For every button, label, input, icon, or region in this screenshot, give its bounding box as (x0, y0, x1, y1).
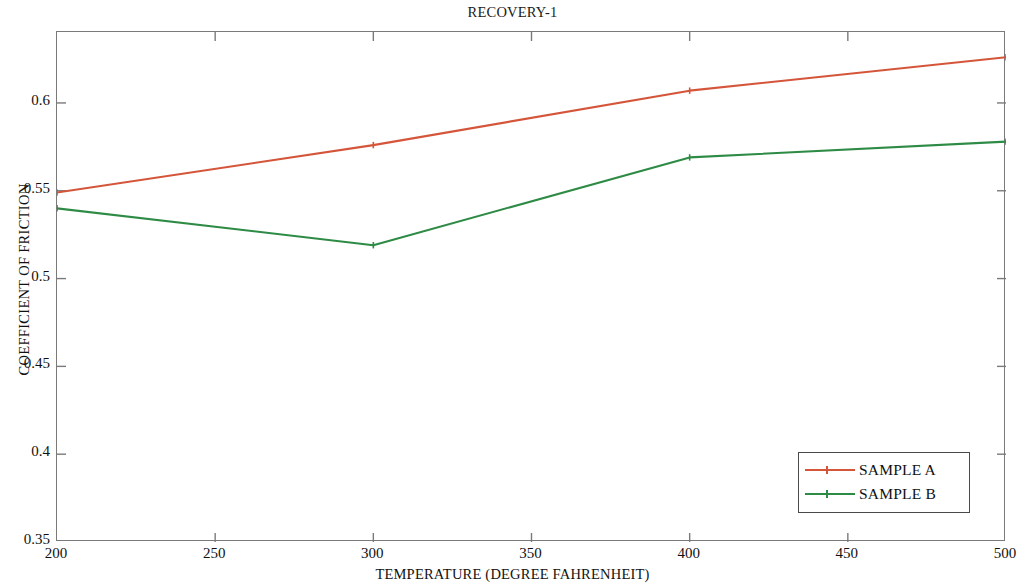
y-axis-title: COEFFICIENT OF FRICTION (16, 115, 33, 445)
series-line-sample-b (57, 138, 1006, 248)
x-tick-label: 400 (654, 545, 724, 562)
chart-title: RECOVERY-1 (0, 4, 1025, 21)
legend-line-icon-sample-a (803, 462, 857, 478)
x-axis-title: TEMPERATURE (DEGREE FAHRENHEIT) (0, 566, 1025, 583)
x-tick-label: 350 (496, 545, 566, 562)
chart-figure: RECOVERY-1 0.350.40.450.50.550.6 2002503… (0, 0, 1025, 586)
x-tick-label: 500 (970, 545, 1025, 562)
series-line-sample-a (57, 54, 1006, 196)
legend-label-sample-b: SAMPLE B (857, 485, 936, 503)
x-tick-label: 200 (21, 545, 91, 562)
y-tick-label: 0.6 (2, 92, 50, 109)
y-tick-label: 0.4 (2, 443, 50, 460)
legend-label-sample-a: SAMPLE A (857, 461, 936, 479)
legend-item-sample-a[interactable]: SAMPLE A (803, 458, 965, 482)
x-tick-label: 300 (337, 545, 407, 562)
legend-item-sample-b[interactable]: SAMPLE B (803, 482, 965, 506)
x-tick-label: 250 (179, 545, 249, 562)
chart-legend: SAMPLE A SAMPLE B (798, 452, 970, 513)
legend-line-icon-sample-b (803, 486, 857, 502)
x-tick-label: 450 (812, 545, 882, 562)
